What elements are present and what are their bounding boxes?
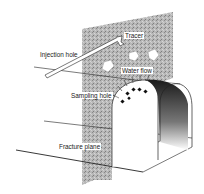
tunnel-front-arch bbox=[112, 80, 158, 167]
label-tracer: Tracer bbox=[124, 32, 144, 39]
diagram-canvas: Tracer Injection hole Water flow Samplin… bbox=[0, 0, 204, 194]
label-water-flow: Water flow bbox=[121, 67, 153, 74]
label-injection-hole: Injection hole bbox=[40, 51, 78, 58]
label-sampling-hole: Sampling hole bbox=[70, 92, 113, 99]
label-fracture-plane: Fracture plane bbox=[58, 143, 101, 150]
